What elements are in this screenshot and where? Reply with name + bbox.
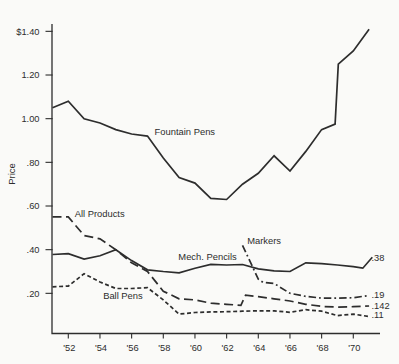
end-value-label-ball-pens: .11 [372, 310, 384, 320]
end-value-label-mech-pencils: .38 [372, 253, 385, 263]
x-tick-label: '70 [348, 343, 360, 353]
series-label-mech-pencils: Mech. Pencils [178, 251, 237, 262]
y-tick-label: 1.00 [21, 114, 39, 124]
end-value-label-markers: .19 [372, 290, 385, 300]
x-tick-label: '62 [222, 343, 234, 353]
y-axis-title: Price [6, 163, 17, 185]
series-line-ball-pens [53, 274, 370, 317]
x-tick-label: '58 [158, 343, 170, 353]
y-tick-label: .40 [27, 245, 40, 255]
x-tick-label: '52 [63, 343, 75, 353]
series-label-all-products: All Products [75, 208, 125, 219]
x-tick-label: '54 [95, 343, 107, 353]
series-label-markers: Markers [247, 235, 281, 246]
price-chart: $1.401.201.00.80.60.40.20'52'54'56'58'60… [0, 0, 399, 364]
series-label-ball-pens: Ball Pens [103, 290, 143, 301]
y-tick-label: 1.20 [21, 70, 39, 80]
line-chart-canvas: $1.401.201.00.80.60.40.20'52'54'56'58'60… [0, 0, 399, 364]
x-tick-label: '56 [127, 343, 139, 353]
y-tick-label: $1.40 [16, 27, 39, 37]
series-label-fountain-pens: Fountain Pens [155, 126, 216, 137]
axes [52, 24, 380, 334]
x-tick-label: '60 [190, 343, 202, 353]
y-tick-label: .20 [27, 289, 40, 299]
series-line-markers [243, 245, 370, 298]
x-tick-label: '68 [317, 343, 329, 353]
x-tick-label: '64 [253, 343, 265, 353]
x-tick-label: '66 [285, 343, 297, 353]
y-tick-label: .80 [27, 158, 40, 168]
y-tick-label: .60 [27, 201, 40, 211]
series-line-fountain-pens [53, 29, 370, 199]
